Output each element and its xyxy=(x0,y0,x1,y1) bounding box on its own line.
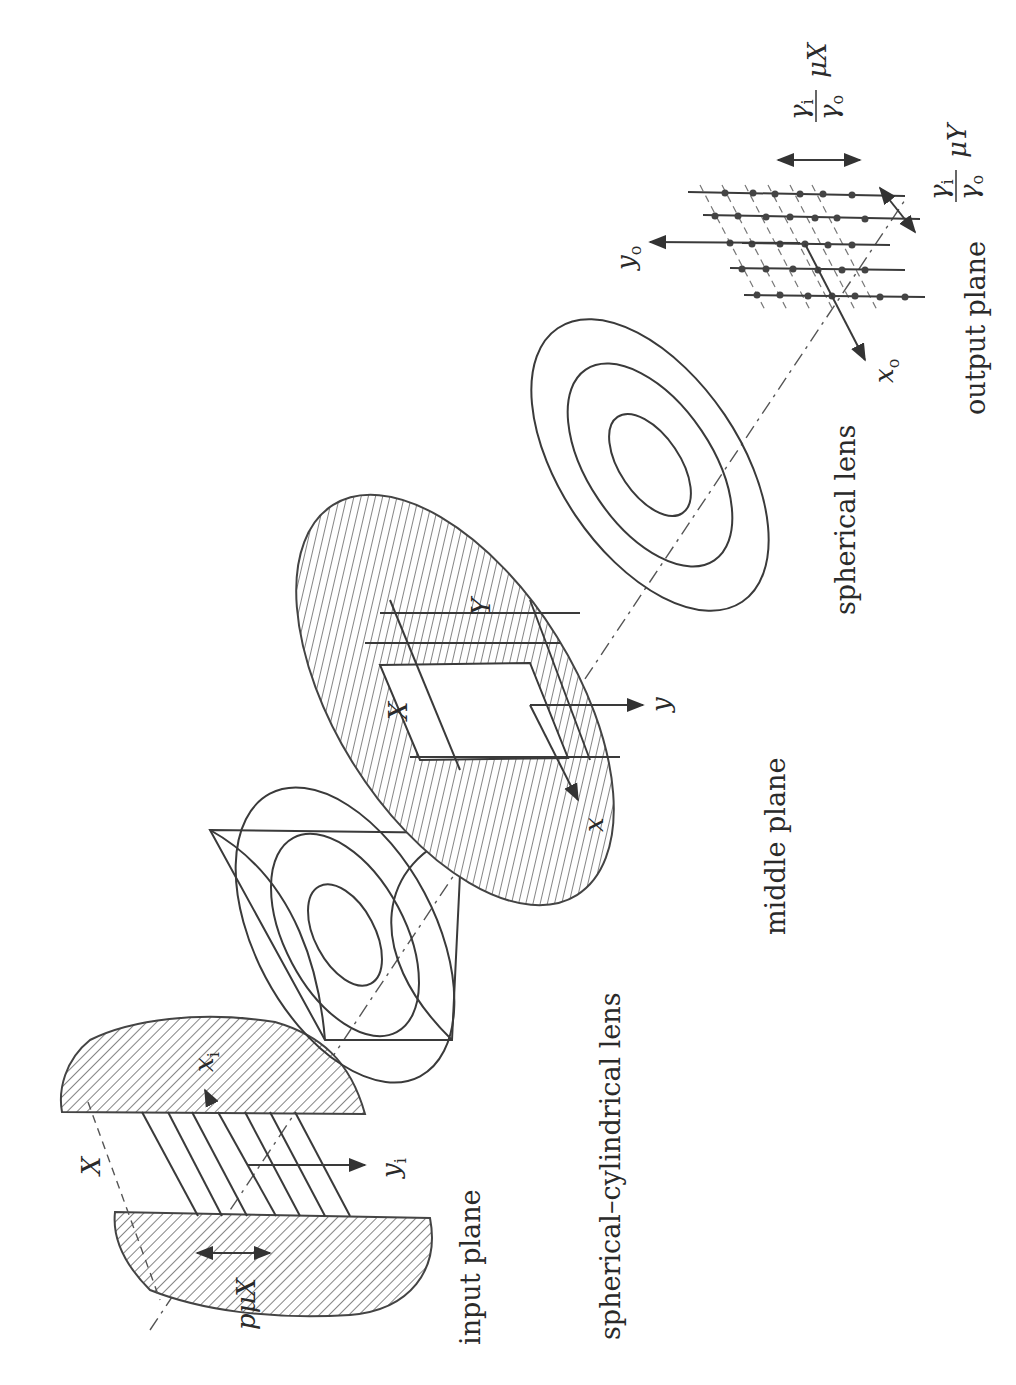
output-plane-label: output plane xyxy=(960,241,991,415)
input-X-label: X xyxy=(76,1155,106,1177)
svg-text:γo: γo xyxy=(954,175,987,200)
middle-X-label: X xyxy=(383,700,413,722)
svg-text:γo: γo xyxy=(814,95,847,120)
output-spacing-y-formula: γi γo μY xyxy=(924,121,987,202)
middle-y-label: y xyxy=(646,697,676,713)
middle-Y-label: Y xyxy=(466,595,496,615)
svg-text:γi: γi xyxy=(784,99,817,120)
input-period-label: pμX xyxy=(231,1276,261,1330)
optical-system-figure: X yi xi pμX input plane spherical–cylind… xyxy=(0,0,1016,1385)
output-spacing-x-formula: γi γo μX xyxy=(784,41,847,122)
spherical-lens xyxy=(483,278,817,652)
middle-plane-label: middle plane xyxy=(760,758,791,935)
input-plane-label: input plane xyxy=(455,1189,486,1345)
svg-text:γi: γi xyxy=(924,179,957,200)
sph-cyl-lens-label: spherical–cylindrical lens xyxy=(595,992,626,1340)
middle-x-label: x xyxy=(579,817,609,832)
output-plane xyxy=(650,160,925,360)
output-yo-label: yo xyxy=(611,246,645,271)
svg-text:μX: μX xyxy=(802,41,832,78)
middle-plane xyxy=(231,441,678,958)
spherical-lens-label: spherical lens xyxy=(830,425,861,615)
svg-text:μY: μY xyxy=(942,121,972,158)
input-yi-label: yi xyxy=(376,1158,410,1179)
output-xo-label: xo xyxy=(869,359,903,383)
